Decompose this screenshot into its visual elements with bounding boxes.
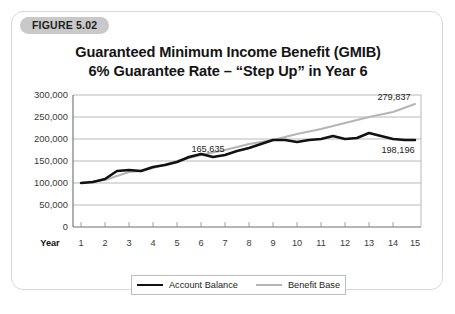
legend-swatch-account-balance	[137, 284, 163, 286]
legend-item-account-balance: Account Balance	[137, 280, 238, 290]
x-tick-label-5: 5	[174, 238, 179, 248]
y-tick-label-100000: 100,000	[34, 177, 68, 188]
legend-item-benefit-base: Benefit Base	[256, 280, 340, 290]
legend-label-account-balance: Account Balance	[169, 280, 238, 290]
annotation-198196: 198,196	[381, 145, 414, 155]
y-tick-label-300000: 300,000	[34, 89, 68, 100]
annotation-165635: 165,635	[191, 144, 224, 154]
x-tick-label-9: 9	[270, 238, 275, 248]
legend-label-benefit-base: Benefit Base	[288, 280, 340, 290]
x-tick-label-4: 4	[150, 238, 155, 248]
y-tick-label-150000: 150,000	[34, 155, 68, 166]
y-tick-label-0: 0	[63, 221, 68, 232]
x-tick-label-12: 12	[340, 238, 350, 248]
y-tick-label-200000: 200,000	[34, 133, 68, 144]
plot-area: 300,000 250,000 200,000 150,000 100,000 …	[12, 12, 444, 291]
x-tick-label-2: 2	[102, 238, 107, 248]
x-tick-label-1: 1	[78, 238, 83, 248]
figure-panel: FIGURE 5.02 Guaranteed Minimum Income Be…	[11, 11, 443, 290]
legend-swatch-benefit-base	[256, 284, 282, 286]
x-tick-label-15: 15	[410, 238, 420, 248]
x-axis-tick-labels: 1 2 3 4 5 6 7 8 9 10 11 12 13 14 15	[78, 238, 420, 248]
x-tick-label-7: 7	[222, 238, 227, 248]
x-tick-label-6: 6	[198, 238, 203, 248]
y-tick-label-250000: 250,000	[34, 111, 68, 122]
x-tick-label-10: 10	[292, 238, 302, 248]
annotation-279837: 279,837	[377, 92, 410, 102]
x-tick-label-14: 14	[388, 238, 398, 248]
chart-legend: Account Balance Benefit Base	[131, 275, 346, 295]
x-tick-label-11: 11	[316, 238, 326, 248]
x-tick-label-3: 3	[126, 238, 131, 248]
x-tickmarks	[81, 222, 393, 227]
data-annotations: 165,635 279,837 198,196	[191, 92, 414, 155]
x-tick-label-8: 8	[246, 238, 251, 248]
y-tick-label-50000: 50,000	[39, 199, 68, 210]
x-axis-title: Year	[40, 238, 60, 248]
y-axis-tick-labels: 300,000 250,000 200,000 150,000 100,000 …	[34, 89, 68, 232]
y-gridlines	[73, 95, 421, 205]
series-line-account-balance	[81, 133, 415, 183]
x-tick-label-13: 13	[364, 238, 374, 248]
chart-svg: 300,000 250,000 200,000 150,000 100,000 …	[12, 12, 444, 291]
